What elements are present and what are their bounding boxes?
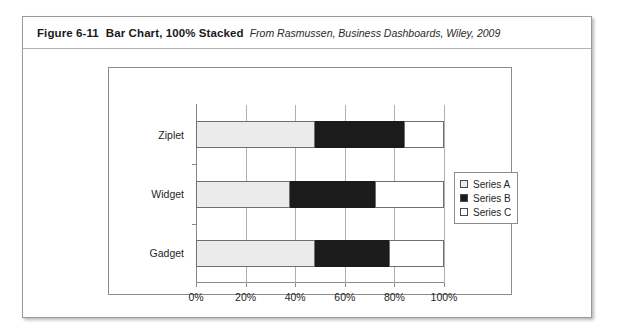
figure-caption: Figure 6-11 Bar Chart, 100% Stacked From… (23, 17, 591, 49)
x-axis-line (196, 282, 444, 283)
bar-segment-series-b (315, 240, 389, 267)
figure-number: Figure 6-11 (37, 27, 99, 39)
figure-title: Bar Chart, 100% Stacked (106, 27, 244, 39)
legend-label: Series C (473, 207, 511, 218)
chart-frame: ZipletWidgetGadget 0%20%40%60%80%100% Se… (108, 67, 512, 295)
bar-segment-series-c (375, 181, 444, 208)
legend-label: Series B (473, 193, 511, 204)
bar-segment-series-a (196, 181, 290, 208)
category-label: Widget (151, 188, 184, 200)
legend-item[interactable]: Series A (460, 177, 511, 191)
x-axis-tick (246, 283, 247, 287)
bar-segment-series-b (315, 121, 404, 148)
x-axis-label: 60% (334, 291, 355, 303)
bar-segment-series-c (389, 240, 444, 267)
bar-row (196, 240, 444, 267)
bar-row (196, 121, 444, 148)
x-axis-label: 40% (285, 291, 306, 303)
gridline (444, 105, 445, 283)
y-axis-tick (192, 224, 196, 225)
bar-segment-series-a (196, 121, 315, 148)
legend-swatch-icon (460, 180, 468, 188)
x-axis-label: 20% (235, 291, 256, 303)
legend-item[interactable]: Series C (460, 205, 511, 219)
bar-segment-series-c (404, 121, 444, 148)
chart-legend: Series ASeries BSeries C (454, 172, 518, 224)
x-axis-label: 80% (384, 291, 405, 303)
x-axis-tick (295, 283, 296, 287)
legend-swatch-icon (460, 194, 468, 202)
bar-segment-series-b (290, 181, 374, 208)
bar-segment-series-a (196, 240, 315, 267)
x-axis-tick (196, 283, 197, 287)
legend-swatch-icon (460, 208, 468, 216)
figure-source: From Rasmussen, Business Dashboards, Wil… (250, 27, 501, 39)
category-label: Gadget (150, 247, 184, 259)
plot-area: ZipletWidgetGadget 0%20%40%60%80%100% (196, 105, 444, 283)
legend-label: Series A (473, 179, 510, 190)
legend-item[interactable]: Series B (460, 191, 511, 205)
x-axis-tick (444, 283, 445, 287)
bar-row (196, 181, 444, 208)
x-axis-tick (394, 283, 395, 287)
x-axis-label: 100% (431, 291, 458, 303)
figure-page: Figure 6-11 Bar Chart, 100% Stacked From… (22, 16, 592, 318)
y-axis-tick (192, 164, 196, 165)
category-label: Ziplet (158, 129, 184, 141)
x-axis-label: 0% (188, 291, 203, 303)
x-axis-tick (345, 283, 346, 287)
